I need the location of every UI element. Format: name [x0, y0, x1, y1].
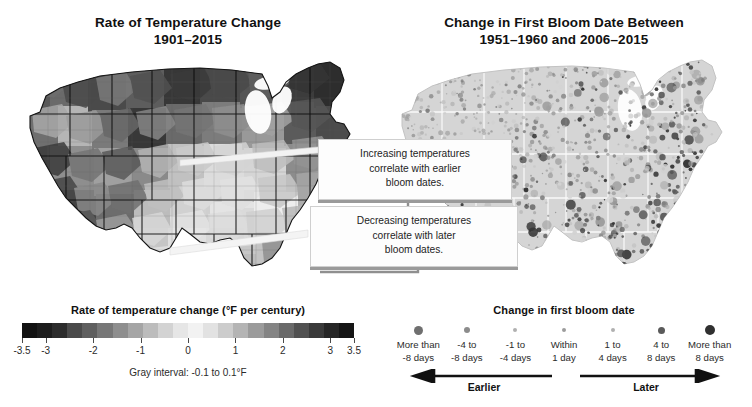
station-dot — [624, 160, 629, 165]
station-dot — [460, 85, 462, 87]
station-dot — [603, 226, 606, 229]
station-dot — [610, 185, 613, 188]
station-dot — [699, 208, 707, 216]
station-dot — [576, 155, 580, 159]
station-dot — [612, 181, 622, 191]
station-dot — [578, 195, 581, 198]
station-dot — [561, 224, 563, 226]
station-dot — [642, 108, 652, 118]
station-dot — [692, 181, 701, 190]
station-dot — [688, 207, 696, 215]
station-dot — [545, 202, 547, 204]
station-dot — [405, 85, 410, 90]
station-dot — [409, 116, 412, 119]
ramp-tick-label-1: -3 — [41, 345, 50, 356]
station-dot — [657, 161, 661, 165]
station-dot — [546, 156, 550, 160]
station-dot — [559, 251, 567, 259]
dot-symbol — [464, 327, 471, 334]
station-dot — [647, 195, 651, 199]
station-dot — [696, 90, 701, 95]
station-dot — [599, 259, 603, 263]
station-dot — [428, 127, 429, 128]
station-dot — [531, 86, 533, 88]
station-dot — [651, 232, 653, 234]
station-dot — [480, 84, 483, 87]
station-dot — [638, 161, 642, 165]
station-dot — [542, 134, 545, 137]
station-dot — [569, 93, 573, 97]
station-dot — [597, 244, 602, 249]
station-dot — [420, 106, 424, 110]
station-dot — [662, 122, 670, 130]
station-dot — [491, 86, 493, 88]
station-dot — [720, 96, 722, 98]
station-dot — [713, 157, 722, 166]
station-dot — [542, 220, 552, 230]
station-dot — [683, 171, 685, 173]
station-dot — [562, 237, 571, 246]
ramp-tick-0 — [22, 338, 23, 343]
color-ramp-tick-labels: -3.5-3-2-101233.5 — [22, 345, 354, 359]
station-dot — [582, 69, 584, 71]
station-dot — [685, 206, 689, 210]
station-dot — [512, 185, 516, 189]
station-dot — [672, 225, 674, 227]
station-dot — [530, 204, 536, 210]
station-dot — [512, 175, 515, 178]
bloom-legend-dot-4 — [589, 321, 637, 339]
station-dot — [572, 230, 577, 235]
station-dot — [593, 138, 596, 141]
station-dot — [657, 123, 661, 127]
station-dot — [587, 248, 590, 251]
station-dot — [450, 102, 454, 106]
station-dot — [460, 132, 463, 135]
station-dot — [610, 175, 615, 180]
station-dot — [603, 118, 606, 121]
station-dot — [554, 249, 557, 252]
station-dot — [546, 75, 549, 78]
station-dot — [711, 227, 713, 229]
station-dot — [461, 79, 464, 82]
station-dot — [644, 166, 649, 171]
station-dot — [426, 78, 428, 80]
station-dot — [459, 98, 463, 102]
station-dot — [642, 194, 644, 196]
station-dot — [621, 235, 624, 238]
bloom-legend-dot-0 — [394, 321, 442, 339]
station-dot — [561, 138, 565, 142]
station-dot — [584, 141, 587, 144]
station-dot — [614, 99, 617, 102]
station-dot — [598, 241, 602, 245]
station-dot — [574, 89, 582, 97]
station-dot — [628, 177, 634, 183]
temperature-legend: Rate of temperature change (°F per centu… — [0, 295, 376, 407]
station-dot — [595, 151, 598, 154]
station-dot — [427, 105, 429, 107]
station-dot — [630, 206, 634, 210]
station-dot — [714, 107, 722, 115]
station-dot — [624, 224, 629, 229]
station-dot — [651, 116, 655, 120]
callout-increasing-line3: bloom dates. — [329, 176, 501, 191]
station-dot — [717, 264, 719, 266]
station-dot — [424, 74, 429, 79]
station-dot — [717, 107, 719, 109]
station-dot — [592, 250, 600, 258]
station-dot — [614, 237, 616, 239]
station-dot — [550, 167, 554, 171]
station-dot — [718, 92, 720, 94]
station-dot — [718, 174, 723, 179]
station-dot — [461, 103, 466, 108]
station-dot — [420, 131, 424, 135]
station-dot — [459, 200, 461, 202]
station-dot — [532, 126, 537, 131]
station-dot — [528, 227, 538, 237]
station-dot — [613, 228, 616, 231]
station-dot — [697, 263, 701, 267]
station-dot — [530, 175, 532, 177]
station-dot — [532, 134, 537, 139]
station-dot — [674, 77, 676, 79]
label-line2: 8 days — [675, 352, 745, 365]
station-dot — [535, 99, 537, 101]
